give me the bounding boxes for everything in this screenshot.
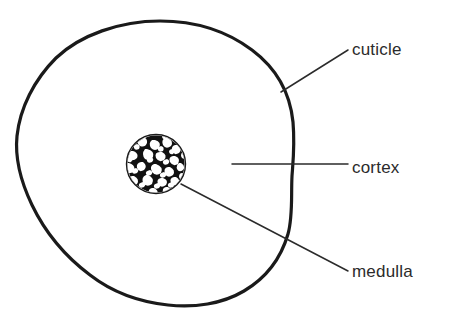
leader-line-cuticle	[281, 50, 348, 92]
label-medulla: medulla	[352, 263, 413, 280]
hair-cross-section-figure: cuticle cortex medulla	[0, 0, 449, 322]
label-cortex: cortex	[352, 159, 400, 176]
label-cuticle: cuticle	[352, 41, 402, 58]
